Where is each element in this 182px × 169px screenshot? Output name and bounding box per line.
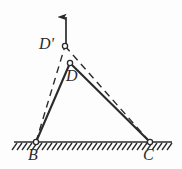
vertex-label-b: B [28, 147, 38, 163]
vertex-label-d: D [66, 68, 78, 84]
vertex-label-dprime: D' [39, 36, 54, 52]
vertex-dot-dprime [62, 43, 67, 48]
vertex-dot-d [67, 60, 72, 65]
geometry-figure: B C D D' [0, 0, 182, 169]
segment-b-to-d [36, 63, 70, 142]
vertex-label-c: C [143, 147, 154, 163]
segment-b-to-dprime [36, 46, 65, 142]
figure-canvas [0, 0, 182, 169]
segment-d-to-c [70, 63, 150, 142]
segment-dprime-to-c [65, 46, 150, 142]
vertex-dot-c [147, 139, 152, 144]
vertex-dot-b [33, 139, 38, 144]
